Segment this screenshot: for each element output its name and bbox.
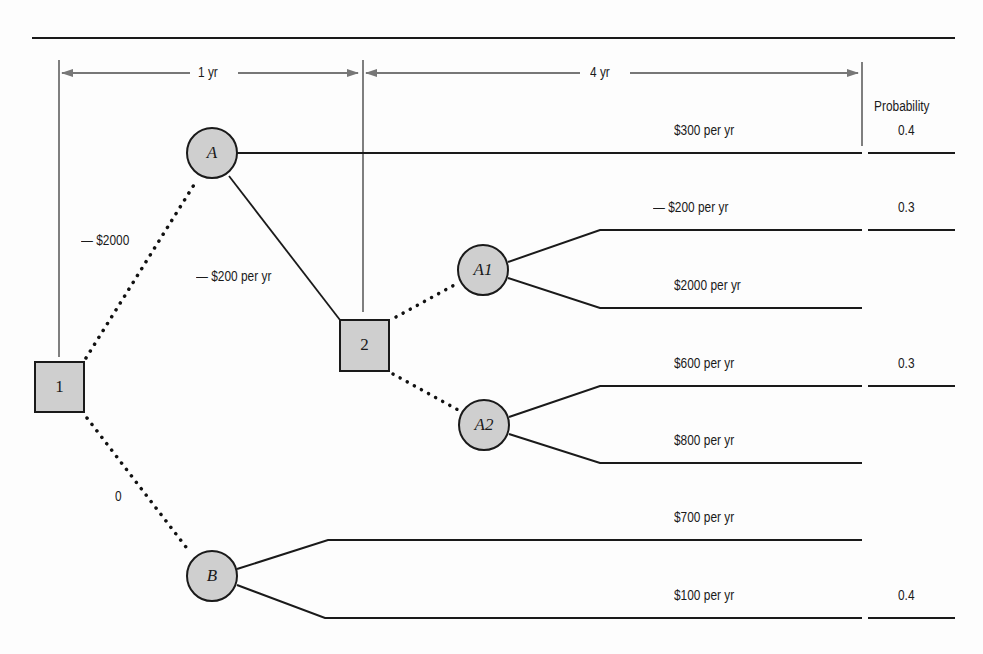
edge-label-d1-to-B: 0	[115, 488, 122, 504]
branch-d2-to-A1	[396, 283, 458, 317]
period1-label: 1 yr	[198, 64, 218, 80]
edge-label-A-to-d2: — $200 per yr	[196, 268, 271, 284]
outcome-line-7	[237, 585, 862, 618]
chance-node-A1-label: A1	[458, 260, 508, 280]
branch-d1-to-A	[86, 180, 197, 358]
probability-4: 0.3	[898, 355, 915, 371]
probability-7: 0.4	[898, 587, 915, 603]
probability-2: 0.3	[898, 199, 915, 215]
edge-label-d1-to-A: — $2000	[81, 232, 129, 248]
outcome-label-6: $700 per yr	[674, 509, 734, 525]
branch-A-to-d2	[229, 176, 340, 320]
chance-node-B-label: B	[187, 566, 237, 586]
branch-d1-to-B	[87, 418, 189, 551]
outcome-label-2: — $200 per yr	[653, 199, 728, 215]
decision-tree-graphics	[0, 0, 983, 654]
branch-d2-to-A2	[393, 374, 460, 411]
probability-1: 0.4	[898, 122, 915, 138]
period2-label: 4 yr	[590, 64, 610, 80]
decision-node-1-label: 1	[35, 377, 84, 397]
decision-node-2-label: 2	[340, 335, 389, 355]
outcome-label-3: $2000 per yr	[674, 277, 741, 293]
chance-node-A2-label: A2	[459, 415, 509, 435]
outcome-label-7: $100 per yr	[674, 587, 734, 603]
outcome-label-4: $600 per yr	[674, 355, 734, 371]
chance-node-A-label: A	[187, 143, 237, 163]
outcome-line-4	[509, 386, 862, 417]
outcome-label-5: $800 per yr	[674, 432, 734, 448]
probability-header: Probability	[874, 98, 930, 114]
outcome-line-2	[508, 230, 862, 262]
outcome-label-1: $300 per yr	[674, 122, 734, 138]
outcome-line-6	[237, 540, 862, 569]
